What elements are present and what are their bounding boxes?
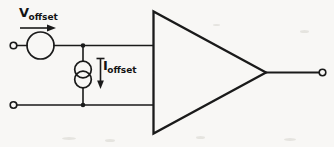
- scan-artifact: [196, 136, 205, 139]
- scan-artifact: [213, 24, 220, 26]
- input-terminal-positive: [10, 42, 17, 49]
- scan-artifact: [62, 137, 76, 140]
- voltage-direction-arrow: [20, 24, 56, 31]
- current-source-circle-top: [75, 61, 92, 78]
- scan-artifact: [105, 139, 115, 142]
- current-source-symbol: [75, 61, 92, 88]
- scan-artifact: [284, 138, 296, 141]
- circuit-canvas: [0, 0, 334, 147]
- circuit-diagram: Voffset Ioffset: [0, 0, 334, 147]
- output-terminal: [319, 69, 326, 76]
- voltage-offset-label-base: V: [19, 5, 29, 20]
- wire-group: [17, 46, 319, 106]
- current-offset-label: Ioffset: [103, 55, 137, 74]
- current-offset-label-subscript: offset: [107, 65, 136, 75]
- current-source-circle-bottom: [75, 71, 92, 88]
- voltage-offset-label: Voffset: [19, 2, 58, 21]
- input-terminal-negative: [10, 102, 17, 109]
- op-amp-triangle: [154, 12, 267, 134]
- junction-bottom-node: [81, 103, 86, 108]
- voltage-offset-label-subscript: offset: [29, 12, 58, 22]
- voltage-source-symbol: [27, 32, 54, 59]
- scan-artifact: [300, 30, 309, 33]
- junction-top-node: [81, 43, 86, 48]
